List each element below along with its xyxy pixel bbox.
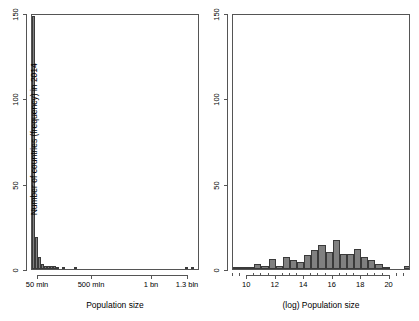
x-axis-minor-tick <box>296 273 297 276</box>
y-axis-tick <box>23 270 27 271</box>
plot-area-right <box>233 15 409 269</box>
y-axis-tick-label: 0 <box>11 260 20 282</box>
histogram-bar <box>354 249 361 269</box>
histogram-bar <box>368 260 375 269</box>
histogram-bar <box>185 267 188 269</box>
x-axis-minor-tick <box>317 273 318 276</box>
histogram-bar <box>297 262 304 269</box>
y-axis-tick <box>23 99 27 100</box>
histogram-bar <box>247 267 254 269</box>
x-axis-tick <box>389 275 390 279</box>
y-axis-tick-label: 150 <box>212 4 221 26</box>
x-axis-tick <box>187 275 188 279</box>
x-axis-minor-tick <box>346 273 347 276</box>
plot-area-left <box>32 15 198 269</box>
histogram-bar <box>276 266 283 269</box>
x-axis-tick-label: 20 <box>364 281 414 289</box>
histogram-bar <box>326 252 333 269</box>
histogram-bar <box>191 267 194 269</box>
plot-box-right <box>232 14 410 270</box>
y-axis-title-left: Number of countries (frequency) in 2014 <box>30 49 39 229</box>
x-axis-minor-tick <box>310 273 311 276</box>
y-axis-tick-label: 100 <box>212 89 221 111</box>
x-axis-minor-tick <box>353 273 354 276</box>
histogram-bar <box>254 264 261 269</box>
panel-left-population-histogram: 050100150 50 mln500 mln1 bn1.3 bln Numbe… <box>0 0 209 321</box>
y-axis-tick <box>224 14 228 15</box>
x-axis-minor-tick <box>367 273 368 276</box>
y-axis-tick <box>224 185 228 186</box>
x-axis-tick <box>303 275 304 279</box>
x-axis-tick <box>246 275 247 279</box>
histogram-bar <box>62 267 65 269</box>
histogram-bar <box>318 245 325 269</box>
histogram-bar <box>290 260 297 269</box>
y-axis-line <box>227 14 228 270</box>
x-axis-tick-label: 50 mln <box>12 281 62 289</box>
x-axis-tick <box>360 275 361 279</box>
histogram-bar <box>383 267 390 269</box>
y-axis-tick-label: 150 <box>11 4 20 26</box>
x-axis-minor-tick <box>339 273 340 276</box>
x-axis-title-left: Population size <box>31 301 199 310</box>
x-axis-tick-label: 1.3 bln <box>162 281 212 289</box>
x-axis-tick <box>151 275 152 279</box>
histogram-bar <box>333 240 340 269</box>
plot-box-left <box>31 14 199 270</box>
x-axis-minor-tick <box>232 273 233 276</box>
x-axis-minor-tick <box>253 273 254 276</box>
histogram-bar <box>347 254 354 269</box>
x-axis-tick-label: 500 mln <box>66 281 116 289</box>
two-panel-histogram-figure: 050100150 50 mln500 mln1 bn1.3 bln Numbe… <box>0 0 419 321</box>
histogram-bar <box>304 255 311 269</box>
x-axis-minor-tick <box>268 273 269 276</box>
x-axis-title-right: (log) Population size <box>232 301 410 310</box>
histogram-bar <box>311 250 318 269</box>
y-axis-line <box>26 14 27 270</box>
x-axis-tick <box>37 275 38 279</box>
x-axis-minor-tick <box>403 273 404 276</box>
y-axis-tick <box>224 99 228 100</box>
y-axis-tick-label: 50 <box>11 174 20 196</box>
histogram-bar <box>404 266 409 269</box>
y-axis-tick-label: 100 <box>11 89 20 111</box>
histogram-bar <box>283 257 290 269</box>
x-axis-minor-tick <box>260 273 261 276</box>
x-axis-minor-tick <box>325 273 326 276</box>
y-axis-tick <box>224 270 228 271</box>
y-axis-tick-label: 50 <box>212 174 221 196</box>
histogram-bar <box>56 267 59 269</box>
x-axis-minor-tick <box>396 273 397 276</box>
histogram-bar <box>375 264 382 269</box>
y-axis-tick <box>23 14 27 15</box>
histogram-bar <box>261 266 268 269</box>
panel-right-log-population-histogram: 050100150 101214161820 (log) Population … <box>210 0 419 321</box>
y-axis-tick <box>23 185 27 186</box>
histogram-bar <box>340 254 347 269</box>
x-axis-line <box>37 275 187 276</box>
histogram-bar <box>240 267 247 269</box>
x-axis-minor-tick <box>374 273 375 276</box>
x-axis-tick <box>332 275 333 279</box>
x-axis-tick <box>275 275 276 279</box>
histogram-bar <box>361 257 368 269</box>
histogram-bar <box>233 267 240 269</box>
x-axis-minor-tick <box>289 273 290 276</box>
x-axis-minor-tick <box>382 273 383 276</box>
x-axis-minor-tick <box>282 273 283 276</box>
x-axis-minor-tick <box>239 273 240 276</box>
x-axis-tick <box>91 275 92 279</box>
histogram-bar <box>269 259 276 269</box>
histogram-bar <box>74 267 77 269</box>
y-axis-tick-label: 0 <box>212 260 221 282</box>
